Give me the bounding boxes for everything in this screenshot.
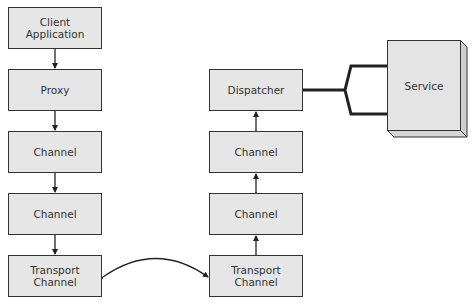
service-transport-channel-box: Transport Channel (209, 255, 303, 297)
dispatcher-label: Dispatcher (228, 84, 285, 96)
proxy-box: Proxy (8, 69, 102, 111)
client-application-box: Client Application (8, 7, 102, 49)
client-channel-box-2: Channel (8, 193, 102, 235)
service-transport-channel-label: Transport Channel (231, 264, 280, 288)
client-channel-label-2: Channel (33, 208, 76, 220)
service-side-face (460, 40, 467, 137)
dispatcher-box: Dispatcher (209, 69, 303, 111)
service-bottom-face (387, 130, 467, 137)
dispatcher-service-connector (303, 66, 387, 114)
service-channel-box-1: Channel (209, 131, 303, 173)
service-box: Service (387, 40, 461, 131)
service-channel-label-2: Channel (234, 208, 277, 220)
wcf-channel-diagram: Client Application Proxy Channel Channel… (0, 0, 474, 306)
client-channel-box-1: Channel (8, 131, 102, 173)
service-channel-label-1: Channel (234, 146, 277, 158)
transport-link-curve (103, 259, 208, 278)
service-channel-box-2: Channel (209, 193, 303, 235)
client-application-label: Client Application (26, 16, 85, 40)
client-transport-channel-label: Transport Channel (30, 264, 79, 288)
client-channel-label-1: Channel (33, 146, 76, 158)
service-label: Service (405, 80, 444, 92)
client-transport-channel-box: Transport Channel (8, 255, 102, 297)
proxy-label: Proxy (41, 84, 70, 96)
